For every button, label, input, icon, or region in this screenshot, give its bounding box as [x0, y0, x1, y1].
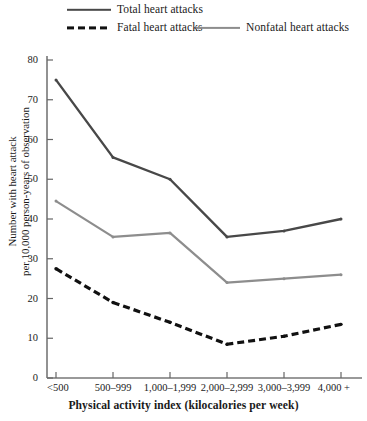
- data-point-marker: [283, 277, 286, 280]
- data-point-marker: [168, 321, 171, 324]
- x-tick-label: 4,000 +: [254, 383, 350, 394]
- plot-svg: [0, 0, 367, 421]
- x-axis-title: Physical activity index (kilocalories pe…: [0, 399, 367, 412]
- data-point-marker: [339, 323, 342, 326]
- y-tick-label: 80: [12, 55, 38, 66]
- data-point-marker: [226, 235, 229, 238]
- y-axis-title-line-1: Number with heart attack: [6, 136, 18, 246]
- series-line-total-heart-attacks: [56, 80, 341, 237]
- heart-attack-line-chart: Total heart attacks Fatal heart attacks …: [0, 0, 367, 421]
- y-tick-label: 0: [12, 373, 38, 384]
- data-point-marker: [54, 267, 57, 270]
- y-axis-ticks: [47, 60, 53, 378]
- data-point-marker: [112, 235, 115, 238]
- data-point-marker: [111, 301, 114, 304]
- data-point-marker: [340, 218, 343, 221]
- data-point-marker: [283, 229, 286, 232]
- y-axis-title: Number with heart attack per 10,000 pers…: [6, 86, 33, 296]
- data-point-marker: [55, 200, 58, 203]
- x-axis-ticks: [56, 372, 341, 378]
- data-point-marker: [340, 273, 343, 276]
- data-point-marker: [169, 178, 172, 181]
- data-point-marker: [226, 281, 229, 284]
- y-axis-title-line-2: per 10,000 person-years of observation: [19, 107, 31, 276]
- data-point-marker: [55, 78, 58, 81]
- data-point-marker: [225, 343, 228, 346]
- data-point-marker: [282, 335, 285, 338]
- series-line-fatal-heart-attacks: [56, 269, 341, 345]
- plot-area: 01020304050607080 <500500–9991,000–1,999…: [0, 0, 367, 421]
- series-line-nonfatal-heart-attacks: [56, 201, 341, 282]
- data-point-marker: [112, 156, 115, 159]
- y-tick-label: 10: [12, 333, 38, 344]
- data-series-layer: [54, 78, 342, 346]
- data-point-marker: [169, 231, 172, 234]
